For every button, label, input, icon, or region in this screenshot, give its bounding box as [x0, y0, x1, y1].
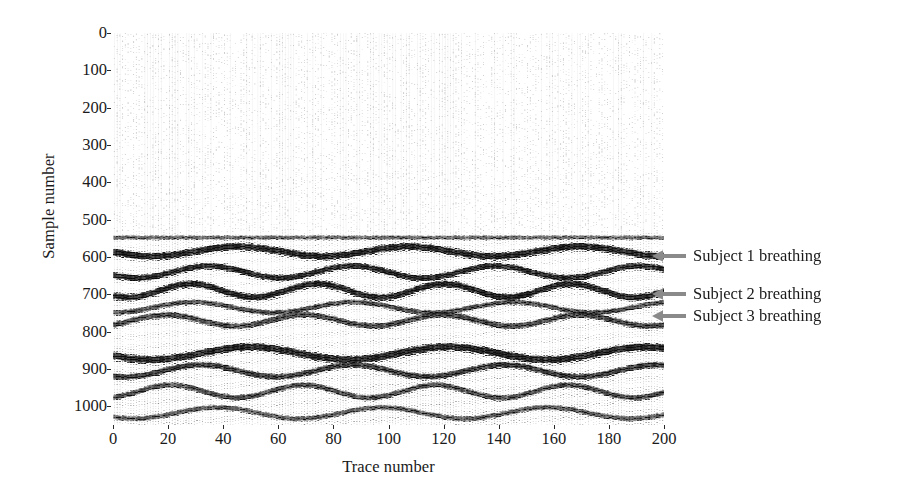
x-tick-mark: [389, 425, 390, 429]
y-tick-mark: [107, 369, 111, 370]
x-tick-label: 200: [634, 431, 694, 448]
y-tick-mark: [107, 70, 111, 71]
y-tick-mark: [107, 108, 111, 109]
arrow-left-icon: [652, 248, 686, 264]
x-tick-mark: [664, 425, 665, 429]
plot-area: [113, 33, 664, 425]
annotation-label: Subject 2 breathing: [686, 286, 821, 303]
y-tick-label: 600: [49, 249, 107, 266]
y-tick-label: 500: [49, 212, 107, 229]
y-tick-label: 200: [49, 100, 107, 117]
y-axis-ticks: 01002003004005006007008009001000: [47, 33, 107, 425]
x-tick-mark: [223, 425, 224, 429]
x-tick-label: 100: [359, 431, 419, 448]
y-tick-mark: [107, 145, 111, 146]
y-tick-mark: [107, 257, 111, 258]
annotation-label: Subject 1 breathing: [686, 248, 821, 265]
x-tick-label: 140: [469, 431, 529, 448]
y-tick-label: 700: [49, 286, 107, 303]
annotation-1: Subject 1 breathing: [652, 245, 821, 267]
y-tick-label: 0: [49, 25, 107, 42]
y-tick-label: 400: [49, 174, 107, 191]
radargram-canvas: [113, 33, 664, 425]
x-tick-label: 160: [524, 431, 584, 448]
x-axis-title: Trace number: [113, 457, 664, 477]
x-axis-ticks: 020406080100120140160180200: [113, 425, 664, 455]
x-tick-mark: [113, 425, 114, 429]
radargram-figure: Sample number 01002003004005006007008009…: [0, 0, 898, 502]
x-tick-label: 120: [414, 431, 474, 448]
x-tick-label: 40: [193, 431, 253, 448]
y-tick-label: 1000: [49, 398, 107, 415]
annotation-2: Subject 2 breathing: [652, 283, 821, 305]
arrow-left-icon: [652, 286, 686, 302]
y-tick-label: 100: [49, 62, 107, 79]
x-tick-label: 180: [579, 431, 639, 448]
arrow-left-icon: [652, 308, 686, 324]
annotation-3: Subject 3 breathing: [652, 305, 821, 327]
x-tick-mark: [609, 425, 610, 429]
y-tick-mark: [107, 33, 111, 34]
x-tick-label: 0: [83, 431, 143, 448]
y-tick-mark: [107, 332, 111, 333]
x-tick-label: 20: [138, 431, 198, 448]
x-tick-mark: [499, 425, 500, 429]
x-tick-label: 80: [303, 431, 363, 448]
x-tick-mark: [168, 425, 169, 429]
y-tick-mark: [107, 406, 111, 407]
y-tick-label: 300: [49, 137, 107, 154]
x-tick-mark: [278, 425, 279, 429]
y-tick-mark: [107, 294, 111, 295]
y-tick-mark: [107, 182, 111, 183]
y-tick-label: 900: [49, 361, 107, 378]
x-tick-mark: [333, 425, 334, 429]
y-tick-mark: [107, 220, 111, 221]
x-tick-mark: [444, 425, 445, 429]
annotation-label: Subject 3 breathing: [686, 308, 821, 325]
x-tick-label: 60: [248, 431, 308, 448]
y-tick-label: 800: [49, 324, 107, 341]
x-tick-mark: [554, 425, 555, 429]
